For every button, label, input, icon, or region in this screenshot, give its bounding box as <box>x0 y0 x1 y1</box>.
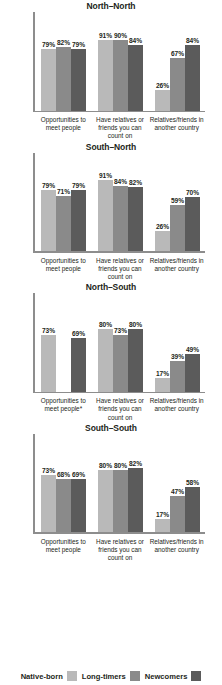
chart-panel: North–North79%82%79%91%90%84%26%67%84%Op… <box>0 0 222 141</box>
bar-value-label: 49% <box>186 346 199 353</box>
bar <box>155 231 170 251</box>
bar-value-label: 73% <box>42 467 55 474</box>
bar-value-label: 84% <box>186 37 199 44</box>
chart-panel: North–South73%69%80%73%80%17%39%49%Oppor… <box>0 281 222 422</box>
bar-slot: 84% <box>128 12 143 111</box>
bar <box>128 187 143 251</box>
bar-value-label: 80% <box>99 321 112 328</box>
bar <box>185 487 200 532</box>
bar <box>113 40 128 110</box>
bar <box>41 335 56 392</box>
bar <box>155 519 170 532</box>
x-axis-tick-label: Opportunities to meet people <box>35 116 92 141</box>
bar-group: 73%69% <box>35 293 92 392</box>
bar-slot: 79% <box>71 12 86 111</box>
bar-slot: 84% <box>113 153 128 252</box>
x-axis-category-labels: Opportunities to meet peopleHave relativ… <box>17 116 205 141</box>
bar <box>41 49 56 111</box>
bar-slot: 79% <box>41 12 56 111</box>
bar-value-label: 58% <box>186 479 199 486</box>
bar-slot: 73% <box>41 293 56 392</box>
bar <box>128 329 143 391</box>
bar-group: 79%82%79% <box>35 12 92 111</box>
bar-value-label: 91% <box>99 32 112 39</box>
bar-groups: 73%69%80%73%80%17%39%49% <box>35 293 205 392</box>
bar-value-label: 90% <box>114 32 127 39</box>
bar <box>155 378 170 391</box>
bar-value-label: 82% <box>129 460 142 467</box>
x-axis-line <box>33 251 205 253</box>
x-axis-tick-label: Relatives/friends in another country <box>148 397 205 422</box>
chart-title: North–South <box>0 281 222 293</box>
bar-value-label: 73% <box>114 327 127 334</box>
bar-value-label: 82% <box>57 39 70 46</box>
bar <box>128 468 143 532</box>
bar-slot: 26% <box>155 153 170 252</box>
x-axis-tick-label: Have relatives or friends you can count … <box>92 538 149 563</box>
bar <box>170 205 185 251</box>
x-axis-category-labels: Opportunities to meet people*Have relati… <box>17 397 205 422</box>
x-axis-tick-label: Relatives/friends in another country <box>148 257 205 282</box>
bar-group: 80%80%82% <box>92 434 149 533</box>
bar-slot: 71% <box>56 153 71 252</box>
bar-slot: 17% <box>155 293 170 392</box>
legend-label: Native-born <box>21 672 63 681</box>
bar-value-label: 80% <box>99 462 112 469</box>
bar <box>170 58 185 110</box>
legend-label: Newcomers <box>145 672 188 681</box>
bar-slot: 84% <box>185 12 200 111</box>
plot-area: 73%69%80%73%80%17%39%49% <box>17 293 205 395</box>
plot-area: 73%68%69%80%80%82%17%47%58% <box>17 434 205 536</box>
x-axis-tick-label: Opportunities to meet people <box>35 257 92 282</box>
x-axis-line <box>33 111 205 113</box>
bar <box>56 196 71 251</box>
bar <box>98 180 113 251</box>
bar-value-label: 82% <box>129 179 142 186</box>
bar-value-label: 26% <box>156 82 169 89</box>
bar-slot: 91% <box>98 12 113 111</box>
bar-group: 17%47%58% <box>149 434 206 533</box>
x-axis-category-labels: Opportunities to meet peopleHave relativ… <box>17 257 205 282</box>
bar-value-label: 79% <box>72 41 85 48</box>
bar-slot: 80% <box>113 434 128 533</box>
bar-slot: 68% <box>56 434 71 533</box>
x-axis-tick-label: Opportunities to meet people* <box>35 397 92 422</box>
bar-value-label: 47% <box>171 488 184 495</box>
chart-legend: Native-bornLong-timersNewcomers <box>0 671 222 681</box>
bar <box>98 329 113 391</box>
x-axis-line <box>33 392 205 394</box>
bar <box>56 47 71 111</box>
x-axis-category-labels: Opportunities to meet peopleHave relativ… <box>17 538 205 563</box>
bar <box>41 190 56 252</box>
bar <box>170 361 185 391</box>
bar-slot: 39% <box>170 293 185 392</box>
bar-slot: 82% <box>128 434 143 533</box>
bar-slot: 79% <box>71 153 86 252</box>
bar-slot: 91% <box>98 153 113 252</box>
bar-value-label: 84% <box>129 37 142 44</box>
chart-title: South–North <box>0 141 222 153</box>
bar <box>113 470 128 532</box>
bar <box>185 197 200 252</box>
bar-value-label: 17% <box>156 511 169 518</box>
bar-value-label: 69% <box>72 471 85 478</box>
bar-group: 26%67%84% <box>149 12 206 111</box>
chart-title: South–South <box>0 422 222 434</box>
bar <box>98 40 113 111</box>
bar-slot: 59% <box>170 153 185 252</box>
bar <box>170 496 185 533</box>
bar <box>71 338 86 392</box>
bar-value-label: 59% <box>171 197 184 204</box>
bar-value-label: 71% <box>57 188 70 195</box>
x-axis-line <box>33 532 205 534</box>
bar-group: 26%59%70% <box>149 153 206 252</box>
legend-swatch <box>130 671 140 681</box>
bar <box>71 479 86 533</box>
chart-panel: South–North79%71%79%91%84%82%26%59%70%Op… <box>0 141 222 282</box>
chart-panel: South–South73%68%69%80%80%82%17%47%58%Op… <box>0 422 222 563</box>
bar <box>113 335 128 392</box>
bar-group: 91%90%84% <box>92 12 149 111</box>
plot-area: 79%82%79%91%90%84%26%67%84% <box>17 12 205 114</box>
legend-swatch <box>67 671 77 681</box>
bar <box>41 475 56 532</box>
